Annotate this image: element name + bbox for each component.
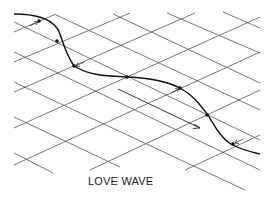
propagation-direction-arrow: [118, 89, 200, 129]
node-dot: [72, 64, 76, 68]
grid-line: [14, 22, 260, 140]
node-dot: [205, 113, 209, 117]
grid-line: [14, 14, 56, 32]
motion-arrow-left-icon: [235, 139, 243, 144]
surface-grid: [14, 12, 260, 190]
node-dot: [231, 142, 235, 146]
motion-arrow-left-icon: [76, 62, 84, 67]
motion-arrow-right-icon: [30, 22, 38, 27]
particle-displacement-curve: [14, 14, 260, 154]
diagram-caption: LOVE WAVE: [88, 175, 153, 187]
wave-nodes: [37, 19, 235, 146]
node-dot: [55, 39, 59, 43]
motion-arrow-right-icon: [171, 89, 179, 94]
love-wave-diagram: [0, 0, 274, 197]
grid-line: [14, 82, 245, 190]
grid-line: [113, 14, 260, 83]
grid-line: [14, 13, 195, 92]
grid-line: [14, 13, 130, 62]
node-dot: [125, 75, 129, 79]
